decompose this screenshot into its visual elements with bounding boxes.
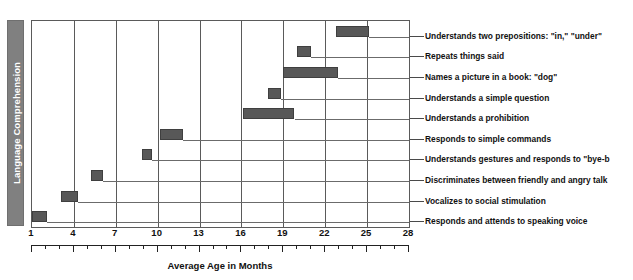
bar xyxy=(160,129,182,140)
x-tick-minor xyxy=(185,245,186,249)
x-tick-major xyxy=(31,245,32,252)
x-tick-label: 7 xyxy=(112,227,117,238)
x-tick-minor xyxy=(296,245,297,249)
x-tick-major xyxy=(240,245,241,252)
label-leader-tick xyxy=(410,159,424,160)
row-label: Understands a prohibition xyxy=(425,113,529,123)
label-leader-tick xyxy=(410,180,424,181)
row-label: Repeats things said xyxy=(425,51,504,61)
bar xyxy=(268,88,281,99)
bar xyxy=(297,46,311,57)
row-leader-line xyxy=(295,119,409,120)
row-label: Vocalizes to social stimulation xyxy=(425,196,546,206)
x-tick-label: 28 xyxy=(403,227,414,238)
x-tick-minor xyxy=(254,245,255,249)
x-tick-label: 10 xyxy=(151,227,162,238)
x-tick-minor xyxy=(268,245,269,249)
x-tick-label: 25 xyxy=(361,227,372,238)
x-tick-minor xyxy=(45,245,46,249)
x-tick-minor xyxy=(87,245,88,249)
category-band-label: Language Comprehension xyxy=(10,62,21,184)
label-leader-tick xyxy=(410,36,424,37)
label-leader-tick xyxy=(410,139,424,140)
row-leader-line xyxy=(338,78,409,79)
row-leader-line xyxy=(369,37,409,38)
row-leader-line xyxy=(78,202,409,203)
x-tick-minor xyxy=(352,245,353,249)
x-tick-label: 16 xyxy=(235,227,246,238)
row-label: Understands gestures and responds to "by… xyxy=(425,154,610,164)
gridline-vertical xyxy=(283,21,284,227)
row-leader-line xyxy=(281,99,409,100)
label-leader-tick xyxy=(410,56,424,57)
x-tick-minor xyxy=(226,245,227,249)
x-tick-minor xyxy=(143,245,144,249)
x-tick-major xyxy=(115,245,116,252)
x-tick-label: 19 xyxy=(277,227,288,238)
bar xyxy=(283,67,337,78)
x-tick-label: 4 xyxy=(70,227,75,238)
bar xyxy=(142,149,152,160)
category-band: Language Comprehension xyxy=(7,20,24,226)
x-tick-major xyxy=(366,245,367,252)
x-tick-minor xyxy=(101,245,102,249)
x-tick-minor xyxy=(213,245,214,249)
language-comprehension-chart: Language Comprehension Understands two p… xyxy=(0,0,633,280)
x-tick-minor xyxy=(380,245,381,249)
gridline-vertical xyxy=(200,21,201,227)
x-tick-minor xyxy=(310,245,311,249)
x-tick-major xyxy=(282,245,283,252)
label-leader-tick xyxy=(410,118,424,119)
x-tick-minor xyxy=(59,245,60,249)
bar xyxy=(243,108,295,119)
row-label: Understands two prepositions: "in," "und… xyxy=(425,31,602,41)
gridline-vertical xyxy=(158,21,159,227)
row-label: Responds to simple commands xyxy=(425,134,551,144)
row-label: Responds and attends to speaking voice xyxy=(425,216,587,226)
gridline-vertical xyxy=(241,21,242,227)
bar xyxy=(61,191,78,202)
x-tick-minor xyxy=(394,245,395,249)
gridline-vertical xyxy=(367,21,368,227)
label-leader-tick xyxy=(410,77,424,78)
label-leader-tick xyxy=(410,221,424,222)
gridline-vertical xyxy=(325,21,326,227)
x-tick-label: 22 xyxy=(319,227,330,238)
x-tick-label: 1 xyxy=(28,227,33,238)
x-tick-major xyxy=(324,245,325,252)
x-axis-title: Average Age in Months xyxy=(31,260,409,271)
bar xyxy=(91,170,104,181)
row-leader-line xyxy=(311,57,409,58)
label-leader-tick xyxy=(410,201,424,202)
x-tick-major xyxy=(73,245,74,252)
bar xyxy=(336,26,368,37)
bar xyxy=(32,211,47,222)
row-leader-line xyxy=(47,222,409,223)
row-leader-line xyxy=(183,140,409,141)
row-leader-line xyxy=(103,181,409,182)
x-tick-minor xyxy=(171,245,172,249)
label-leader-tick xyxy=(410,98,424,99)
row-leader-line xyxy=(152,160,409,161)
gridline-vertical xyxy=(116,21,117,227)
x-tick-major xyxy=(408,245,409,252)
x-tick-minor xyxy=(338,245,339,249)
row-label: Names a picture in a book: "dog" xyxy=(425,72,557,82)
plot-area xyxy=(31,20,410,228)
x-tick-minor xyxy=(129,245,130,249)
x-tick-label: 13 xyxy=(193,227,204,238)
gridline-vertical xyxy=(409,21,410,227)
row-label: Discriminates between friendly and angry… xyxy=(425,175,607,185)
x-tick-major xyxy=(199,245,200,252)
x-tick-major xyxy=(157,245,158,252)
row-label: Understands a simple question xyxy=(425,93,549,103)
